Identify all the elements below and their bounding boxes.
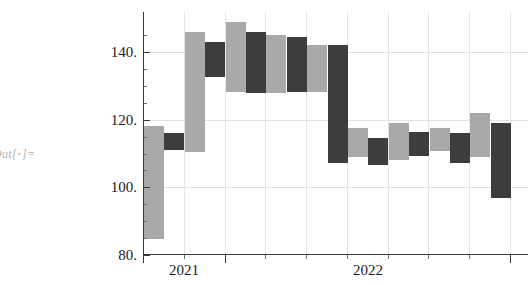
y-tick-major	[144, 52, 150, 53]
y-tick-minor	[144, 170, 147, 171]
x-tick-minor	[388, 255, 389, 259]
x-tick-minor	[469, 255, 470, 259]
y-tick-label: 120.	[111, 112, 137, 129]
out-prompt-suffix: ]=	[22, 147, 35, 161]
candle-bar	[164, 133, 184, 150]
candle-bar	[409, 132, 429, 156]
x-tick-minor	[428, 255, 429, 259]
candle-bar	[246, 32, 266, 93]
bars-layer	[143, 12, 528, 254]
candle-bar	[185, 32, 205, 152]
x-tick-minor	[306, 255, 307, 259]
x-tick-major	[143, 255, 144, 263]
x-tick-minor	[184, 255, 185, 259]
y-tick-major	[144, 187, 150, 188]
y-tick-major	[144, 255, 150, 256]
notebook-output-cell: Out[•]= 80.100.120.140. 20212022	[0, 0, 528, 285]
x-tick-minor	[265, 255, 266, 259]
candle-bar	[144, 126, 164, 239]
candle-bar	[348, 128, 368, 157]
candle-bar	[491, 123, 511, 198]
y-tick-minor	[144, 238, 147, 239]
candle-bar	[307, 45, 327, 92]
candle-bar	[470, 113, 490, 157]
candle-bar	[450, 133, 470, 163]
candle-bar	[226, 22, 246, 92]
x-tick-minor	[347, 255, 348, 259]
candle-bar	[205, 42, 225, 77]
candle-bar	[430, 128, 450, 151]
y-tick-minor	[144, 137, 147, 138]
y-tick-label: 140.	[111, 44, 137, 61]
y-tick-minor	[144, 204, 147, 205]
x-tick-label: 2021	[169, 262, 199, 279]
x-tick-major	[225, 255, 226, 263]
y-tick-major	[144, 120, 150, 121]
x-axis-line	[143, 254, 528, 255]
x-tick-label: 2022	[353, 262, 383, 279]
y-tick-minor	[144, 35, 147, 36]
candle-bar	[287, 37, 307, 92]
candle-bar	[368, 138, 388, 165]
y-tick-minor	[144, 86, 147, 87]
out-prompt-label: Out[•]=	[0, 147, 35, 162]
y-tick-label: 80.	[118, 247, 137, 264]
y-tick-label: 100.	[111, 179, 137, 196]
candle-bar	[389, 123, 409, 160]
y-tick-minor	[144, 221, 147, 222]
candlestick-chart: 80.100.120.140. 20212022	[143, 12, 528, 255]
out-prompt-prefix: Out[	[0, 147, 17, 161]
candle-bar	[266, 35, 286, 93]
y-tick-minor	[144, 69, 147, 70]
x-tick-major	[510, 255, 511, 263]
y-axis-line	[143, 12, 144, 255]
plot-area: 80.100.120.140. 20212022	[143, 12, 528, 255]
candle-bar	[328, 45, 348, 163]
y-tick-minor	[144, 154, 147, 155]
y-tick-minor	[144, 103, 147, 104]
